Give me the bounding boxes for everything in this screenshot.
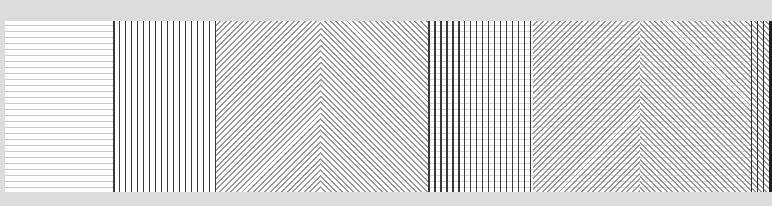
chevron-left-half (533, 21, 640, 192)
panel-chevron (216, 21, 428, 192)
panel-vertical-over-horizontal (428, 21, 533, 192)
panel-chevron-over-horizontal (533, 21, 751, 192)
chevron-right-half (321, 21, 428, 192)
panel-horizontal-lines (5, 21, 113, 192)
panel-vertical-lines (113, 21, 216, 192)
panel-vertical-over-diagonal (751, 21, 772, 192)
pattern-strip: Strip of six line-pattern panels (optica… (5, 21, 772, 192)
chevron-left-half (216, 21, 321, 192)
chevron-right-half (640, 21, 751, 192)
